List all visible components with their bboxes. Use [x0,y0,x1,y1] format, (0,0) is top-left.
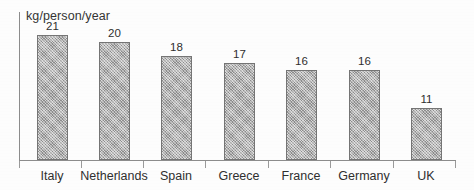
bar-greece [224,63,255,160]
bar-value-label: 20 [108,27,121,39]
bar-value-label: 16 [295,55,308,67]
bars-layer: 21 20 18 17 16 16 11 [0,0,474,190]
bar-value-label: 17 [233,48,246,60]
bar-netherlands [99,42,130,160]
x-tick-label-netherlands: Netherlands [80,169,147,183]
bar-italy [37,35,68,160]
bar-group: 20 [99,42,130,160]
bar-chart: kg/person/year 21 20 18 17 16 [0,0,474,190]
x-tick-label-uk: UK [417,169,434,183]
x-tick-label-italy: Italy [41,169,64,183]
bar-spain [161,56,192,160]
bar-group: 21 [37,35,68,160]
bar-france [286,70,317,160]
x-tick-label-germany: Germany [338,169,389,183]
bar-group: 11 [411,108,442,160]
bar-value-label: 16 [358,55,371,67]
bar-value-label: 21 [46,20,59,32]
x-tick-label-spain: Spain [160,169,192,183]
bar-uk [411,108,442,160]
bar-value-label: 18 [170,41,183,53]
bar-group: 16 [349,70,380,160]
bar-group: 17 [224,63,255,160]
x-tick-label-france: France [282,169,321,183]
bar-germany [349,70,380,160]
bar-value-label: 11 [421,93,433,105]
x-tick-label-greece: Greece [219,169,260,183]
bar-group: 18 [161,56,192,160]
bar-group: 16 [286,70,317,160]
